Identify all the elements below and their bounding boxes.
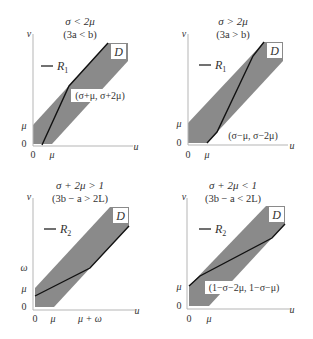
region-label: D [269, 44, 279, 58]
panel-title: σ + 2μ < 1 [209, 179, 257, 191]
y-axis-label: v [27, 191, 32, 202]
panel-title: σ > 2μ [218, 15, 248, 27]
panel-subtitle: (3b − a > 2L) [52, 193, 109, 205]
panel-bottom-left: σ + 2μ > 1 (3b − a > 2L) D R2 v u 0 μ μ … [20, 179, 139, 324]
y-axis-label: v [27, 28, 32, 39]
y-tick: 0 [177, 137, 182, 148]
region-label: D [271, 208, 281, 222]
x-tick: 0 [33, 313, 38, 324]
x-tick: μ + ω [77, 313, 102, 324]
x-tick: μ [203, 149, 209, 160]
y-tick: μ [175, 281, 181, 292]
x-axis-label: u [134, 141, 139, 152]
x-tick: μ [205, 313, 211, 324]
x-tick: 0 [186, 149, 191, 160]
y-axis-label: v [182, 28, 187, 39]
legend-label: R2 [59, 222, 71, 238]
y-tick: 0 [177, 300, 182, 311]
y-axis-label: v [182, 191, 187, 202]
panel-subtitle: (3b − a < 2L) [205, 193, 262, 205]
point-label: (1−σ−2μ, 1−σ−μ) [209, 282, 280, 294]
point-label: (σ+μ, σ+2μ) [75, 90, 124, 102]
panel-bottom-right: σ + 2μ < 1 (3b − a < 2L) D R2 (1−σ−2μ, 1… [175, 179, 294, 324]
panel-title: σ + 2μ > 1 [56, 179, 104, 191]
region-label: D [113, 45, 123, 59]
panel-title: σ < 2μ [65, 15, 95, 27]
x-tick: 0 [187, 313, 192, 324]
y-tick: 0 [22, 301, 27, 312]
panel-subtitle: (3a < b) [63, 29, 97, 41]
panel-top-right: σ > 2μ (3a > b) D R1 (σ−μ, σ−2μ) v u 0 μ… [175, 15, 294, 160]
legend-label: R2 [214, 222, 226, 238]
y-tick: ω [20, 262, 27, 273]
y-tick: μ [20, 120, 26, 131]
x-tick: 0 [31, 149, 36, 160]
x-tick: μ [49, 313, 55, 324]
x-tick: μ [48, 149, 54, 160]
y-tick: μ [20, 283, 26, 294]
panel-top-left: σ < 2μ (3a < b) D R1 (σ+μ, σ+2μ) v u 0 μ… [20, 15, 138, 160]
panel-subtitle: (3a > b) [216, 29, 250, 41]
legend-label: R1 [214, 58, 226, 74]
point-label: (σ−μ, σ−2μ) [228, 130, 277, 142]
x-axis-label: u [290, 140, 295, 151]
x-axis-label: u [135, 305, 140, 316]
y-tick: 0 [22, 138, 27, 149]
region-label: D [115, 209, 125, 223]
legend-label: R1 [56, 59, 68, 75]
x-axis-label: u [290, 304, 295, 315]
y-tick: μ [175, 118, 181, 129]
diagram-canvas: σ < 2μ (3a < b) D R1 (σ+μ, σ+2μ) v u 0 μ… [0, 0, 313, 339]
